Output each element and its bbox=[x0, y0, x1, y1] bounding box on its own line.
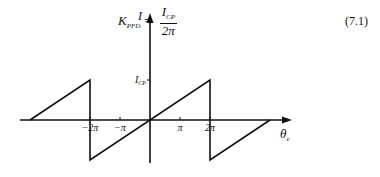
x-tick-label: −π bbox=[114, 122, 127, 133]
x-axis-label: θe bbox=[280, 126, 290, 143]
y-axis-label: I bbox=[137, 9, 143, 23]
y-axis-arrow-icon bbox=[147, 13, 154, 23]
pfd-transfer-chart: Iθe−2π−ππ2πICP bbox=[0, 0, 380, 177]
x-tick-label: π bbox=[177, 122, 183, 133]
page: KPFD = ICP 2π (7.1) Iθe−2π−ππ2πICP bbox=[0, 0, 380, 177]
x-axis-arrow-icon bbox=[282, 117, 292, 124]
y-tick-label: ICP bbox=[134, 74, 146, 86]
